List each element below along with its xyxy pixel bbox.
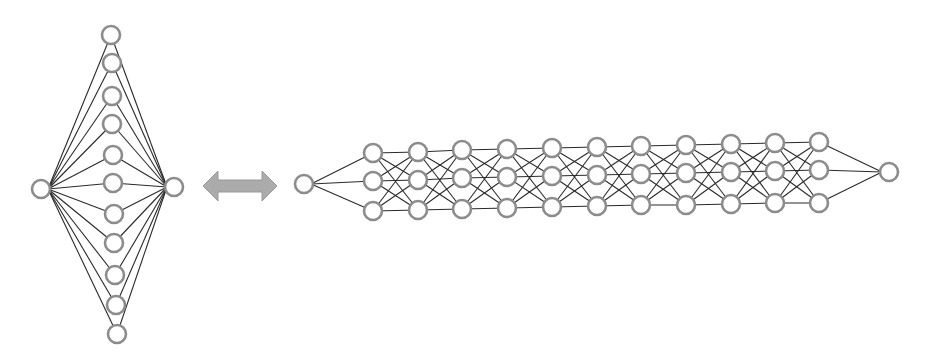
- hidden-node: [453, 141, 471, 159]
- hidden-node: [106, 266, 124, 284]
- hidden-node: [107, 296, 125, 314]
- input-node: [32, 180, 50, 198]
- hidden-node: [409, 143, 427, 161]
- hidden-node: [588, 197, 606, 215]
- hidden-node: [409, 171, 427, 189]
- hidden-node: [766, 194, 784, 212]
- edge: [48, 124, 112, 189]
- hidden-node: [364, 144, 382, 162]
- hidden-node: [810, 161, 828, 179]
- hidden-node: [766, 162, 784, 180]
- hidden-node: [103, 115, 121, 133]
- hidden-node: [102, 26, 120, 44]
- hidden-node: [588, 166, 606, 184]
- hidden-node: [498, 199, 516, 217]
- neural-network-comparison-diagram: [0, 0, 930, 363]
- hidden-node: [543, 198, 561, 216]
- hidden-node: [632, 196, 650, 214]
- hidden-node: [677, 196, 695, 214]
- hidden-node: [543, 139, 561, 157]
- hidden-node: [498, 168, 516, 186]
- hidden-node: [543, 167, 561, 185]
- hidden-node: [722, 135, 740, 153]
- deep-network-nodes: [295, 133, 898, 220]
- hidden-node: [632, 165, 650, 183]
- hidden-node: [810, 133, 828, 151]
- wide-network-nodes: [32, 26, 183, 343]
- hidden-node: [104, 174, 122, 192]
- hidden-node: [453, 169, 471, 187]
- hidden-node: [364, 172, 382, 190]
- hidden-node: [810, 194, 828, 212]
- hidden-node: [105, 234, 123, 252]
- hidden-node: [722, 195, 740, 213]
- hidden-node: [104, 146, 122, 164]
- hidden-node: [677, 136, 695, 154]
- hidden-node: [105, 205, 123, 223]
- edge: [819, 172, 882, 203]
- output-node: [880, 163, 898, 181]
- hidden-node: [722, 163, 740, 181]
- hidden-node: [632, 137, 650, 155]
- hidden-node: [103, 54, 121, 72]
- hidden-node: [498, 140, 516, 158]
- hidden-node: [766, 134, 784, 152]
- edge: [112, 96, 167, 187]
- hidden-node: [103, 87, 121, 105]
- hidden-node: [364, 202, 382, 220]
- hidden-node: [453, 200, 471, 218]
- hidden-node: [588, 138, 606, 156]
- double-arrow-icon: [203, 171, 277, 201]
- hidden-node: [677, 164, 695, 182]
- output-node: [165, 178, 183, 196]
- hidden-node: [409, 201, 427, 219]
- hidden-node: [108, 325, 126, 343]
- double-arrow-icon: [203, 171, 277, 201]
- input-node: [295, 175, 313, 193]
- diagram-canvas: [0, 0, 930, 363]
